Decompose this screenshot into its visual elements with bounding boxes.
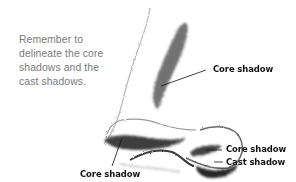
tip-core-shadow xyxy=(104,135,186,150)
bridge-core-shadow xyxy=(153,22,187,110)
nostril-inner-curve xyxy=(130,150,194,166)
tip-outline xyxy=(106,119,196,138)
intro-line-1: Remember to xyxy=(19,33,129,47)
intro-line-3: shadows and the xyxy=(19,61,129,75)
nose-illustration: Remember to delineate the core shadows a… xyxy=(0,0,296,182)
nose-sketch-drawing xyxy=(0,0,296,182)
intro-note: Remember to delineate the core shadows a… xyxy=(19,33,129,89)
intro-line-4: cast shadows. xyxy=(19,75,129,89)
label-nostril-core-shadow: Core shadow xyxy=(226,143,286,154)
label-bridge-core-shadow: Core shadow xyxy=(213,63,273,74)
label-cast-shadow: Cast shadow xyxy=(226,156,285,167)
intro-line-2: delineate the core xyxy=(19,47,129,61)
label-tip-core-shadow: Core shadow xyxy=(80,168,140,179)
nostril-core-shadow xyxy=(190,145,222,156)
